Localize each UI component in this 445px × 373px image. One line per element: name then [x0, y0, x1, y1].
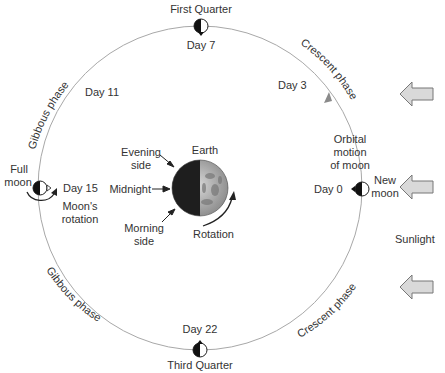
earth-rotation-label: Rotation — [193, 228, 234, 241]
day-3-label: Day 3 — [278, 79, 307, 92]
sunlight-arrow-icon — [400, 275, 433, 299]
orbital-motion-label-line1: Orbital — [325, 133, 375, 146]
moons-rotation-label-line1: Moon's — [58, 200, 102, 213]
evening-side-label-line2: side — [117, 159, 165, 172]
day-11-label: Day 11 — [85, 86, 119, 99]
morning-side-arrow-icon — [162, 209, 175, 222]
day-22-label: Day 22 — [175, 323, 225, 336]
midnight-label: Midnight — [100, 183, 151, 196]
orbital-motion-label-line2: motion — [325, 146, 375, 159]
full-moon-label-line1: Full — [4, 163, 34, 176]
earth-icon — [172, 158, 228, 218]
morning-side-label-line1: Morning — [120, 222, 168, 235]
third-quarter-label: Third Quarter — [155, 359, 245, 372]
crescent-phase-top-label: Crescent phase — [299, 36, 360, 102]
earth-label: Earth — [185, 144, 225, 157]
gibbous-phase-bottom-label: Gibbous phase — [44, 264, 103, 323]
day-0-label: Day 0 — [314, 183, 343, 196]
first-quarter-moon-icon — [194, 19, 208, 36]
evening-side-label-line1: Evening — [117, 146, 165, 159]
full-moon-icon — [33, 181, 51, 195]
sunlight-arrow-icon — [400, 82, 433, 106]
full-moon-label-line2: moon — [1, 176, 35, 189]
orbital-motion-label-line3: of moon — [325, 159, 375, 172]
moon-phases-diagram: Gibbous phase Crescent phase Gibbous pha… — [0, 0, 445, 373]
sunlight-arrow-icon — [400, 175, 433, 199]
new-moon-label-line1: New — [368, 174, 402, 187]
gibbous-phase-top-label: Gibbous phase — [25, 79, 70, 151]
third-quarter-moon-icon — [193, 340, 207, 357]
moons-rotation-label-line2: rotation — [58, 213, 102, 226]
first-quarter-label: First Quarter — [161, 3, 241, 16]
new-moon-icon — [351, 182, 369, 196]
day-15-label: Day 15 — [63, 182, 98, 195]
sunlight-label: Sunlight — [395, 233, 435, 246]
midnight-arrow-icon — [152, 186, 170, 192]
new-moon-label-line2: moon — [368, 187, 402, 200]
day-7-label: Day 7 — [176, 39, 226, 52]
orbital-motion-arrow-icon — [324, 92, 332, 103]
morning-side-label-line2: side — [120, 235, 168, 248]
